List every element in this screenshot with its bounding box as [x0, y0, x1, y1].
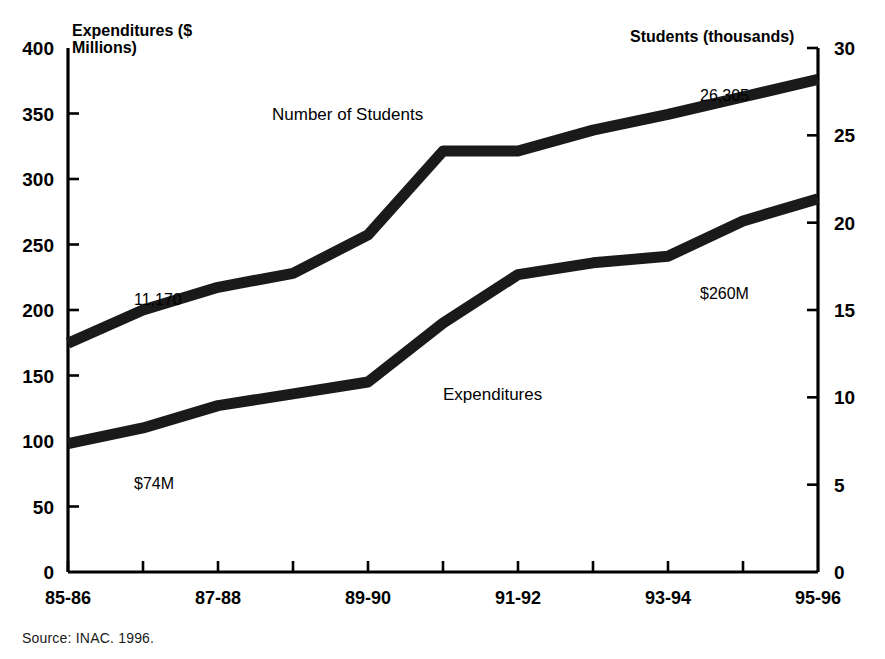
right-axis-ticks [807, 48, 818, 485]
left-axis-tick-label: 200 [22, 300, 54, 321]
x-axis-ticks [68, 561, 743, 572]
chart-figure: 050100150200250300350400 051015202530 85… [0, 0, 885, 659]
left-axis-tick-label: 100 [22, 431, 54, 452]
students-end-value-label: 26,305 [700, 87, 749, 104]
left-axis-tick-label: 50 [33, 497, 54, 518]
left-axis-tick-labels: 050100150200250300350400 [22, 38, 54, 583]
right-axis-tick-label: 0 [834, 562, 845, 583]
left-axis-tick-label: 300 [22, 169, 54, 190]
left-axis-tick-label: 400 [22, 38, 54, 59]
right-axis-tick-label: 10 [834, 387, 855, 408]
left-axis-title: Expenditures ($ Millions) [72, 22, 232, 57]
x-axis-tick-labels: 85-8687-8889-9091-9293-9495-96 [45, 588, 841, 608]
left-axis-tick-label: 250 [22, 235, 54, 256]
x-axis-tick-label: 85-86 [45, 588, 91, 608]
expenditures-end-value-label: $260M [700, 285, 749, 302]
expenditures-start-value-label: $74M [134, 475, 174, 492]
x-axis-tick-label: 91-92 [495, 588, 541, 608]
left-axis-tick-label: 0 [43, 562, 54, 583]
chart-canvas: 050100150200250300350400 051015202530 85… [0, 0, 885, 659]
right-axis-title: Students (thousands) [630, 28, 840, 45]
right-axis-tick-label: 5 [834, 475, 845, 496]
x-axis-tick-label: 95-96 [795, 588, 841, 608]
right-axis-tick-label: 25 [834, 125, 856, 146]
axes-group [68, 48, 818, 572]
x-axis-tick-label: 87-88 [195, 588, 241, 608]
x-axis-tick-label: 89-90 [345, 588, 391, 608]
source-note: Source: INAC. 1996. [22, 630, 154, 646]
x-axis-tick-label: 93-94 [645, 588, 691, 608]
left-axis-tick-label: 350 [22, 104, 54, 125]
students-start-value-label: 11,170 [134, 291, 182, 308]
right-axis-tick-labels: 051015202530 [834, 38, 856, 583]
expenditures-series-line [68, 199, 818, 444]
left-axis-tick-label: 150 [22, 366, 54, 387]
students-series-label: Number of Students [272, 105, 423, 124]
expenditures-series-label: Expenditures [443, 385, 542, 404]
right-axis-tick-label: 20 [834, 213, 855, 234]
right-axis-tick-label: 15 [834, 300, 856, 321]
